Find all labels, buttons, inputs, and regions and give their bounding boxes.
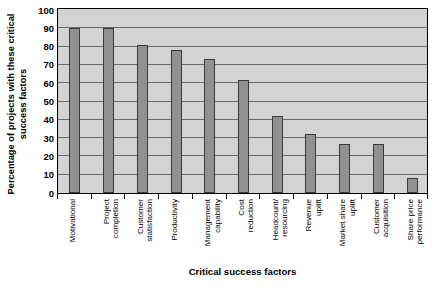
- plot-area: [57, 8, 428, 194]
- x-axis-category-label: resourcing: [280, 199, 292, 261]
- x-axis-category-labels: MotivationalProjectcompletionCustomersta…: [57, 199, 428, 261]
- y-axis-tick-label: 0: [49, 187, 54, 198]
- x-axis-category-label: uplift: [314, 199, 326, 261]
- bar-chart: Percentage of projects with these critic…: [0, 0, 441, 295]
- x-axis-category-label: reduction: [246, 199, 258, 261]
- x-axis-category-label: capability: [213, 199, 225, 261]
- y-axis-title-line-1: Percentage of projects with these critic…: [6, 14, 16, 195]
- y-axis-tick-label: 10: [43, 169, 54, 180]
- bar: [272, 116, 283, 193]
- y-axis-tick-label: 100: [38, 4, 54, 15]
- y-axis-tick-labels: 1009080706050403020100: [34, 8, 56, 194]
- x-axis-category-label: acquisition: [381, 199, 393, 261]
- x-axis-title: Critical success factors: [57, 266, 428, 277]
- bar: [137, 45, 148, 193]
- x-axis-category-label: performance: [415, 199, 427, 261]
- y-axis-title: Percentage of projects with these critic…: [0, 8, 34, 200]
- bar: [339, 144, 350, 193]
- bar: [103, 28, 114, 193]
- y-axis-tick-label: 90: [43, 22, 54, 33]
- y-axis-tick-label: 40: [43, 114, 54, 125]
- y-axis-tick-label: 60: [43, 77, 54, 88]
- bar: [373, 144, 384, 193]
- bar: [204, 59, 215, 193]
- bar: [238, 80, 249, 193]
- y-axis-tick-label: 70: [43, 59, 54, 70]
- y-axis-tick-label: 50: [43, 96, 54, 107]
- x-axis-category-label: uplift: [348, 199, 360, 261]
- y-axis-title-line-2: success factors: [17, 14, 29, 195]
- bar: [171, 50, 182, 193]
- x-axis-category-label: statisfaction: [145, 199, 157, 261]
- bar-series: [58, 9, 427, 193]
- bar: [407, 178, 418, 193]
- bar: [69, 28, 80, 193]
- x-axis-category-label: Productivity: [170, 199, 182, 261]
- bar: [305, 134, 316, 193]
- y-axis-tick-label: 20: [43, 150, 54, 161]
- y-axis-tick-label: 30: [43, 132, 54, 143]
- x-axis-category-label: completion: [111, 199, 123, 261]
- x-axis-category-label: Motivational: [68, 199, 80, 261]
- y-axis-tick-label: 80: [43, 41, 54, 52]
